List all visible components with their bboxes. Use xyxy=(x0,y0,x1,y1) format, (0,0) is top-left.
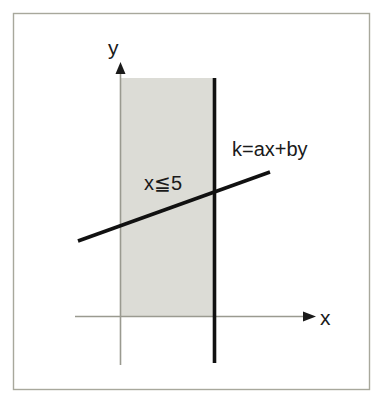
objective-line-label: k=ax+by xyxy=(232,138,308,160)
y-axis-label: y xyxy=(108,36,119,59)
figure-container: y x x≦5 k=ax+by xyxy=(0,0,388,404)
x-axis-label: x xyxy=(320,306,331,329)
diagram-canvas: y x x≦5 k=ax+by xyxy=(0,0,388,404)
constraint-region-label: x≦5 xyxy=(144,172,182,194)
